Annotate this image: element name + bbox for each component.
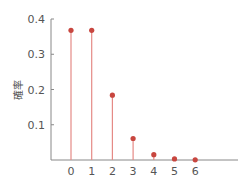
stem-marker [131,136,136,141]
x-tick-label: 5 [171,165,178,178]
x-tick-label: 3 [130,165,137,178]
x-tick-label: 4 [150,165,157,178]
y-tick-label: 0.4 [28,13,46,26]
y-tick-label: 0.2 [28,84,46,97]
stem-marker [110,93,115,98]
y-axis-label: 確率 [12,80,24,100]
stem-chart: 0.10.20.30.4 0123456 確率 [0,0,249,184]
x-tick-label: 0 [68,165,75,178]
axes [51,19,238,160]
y-tick-label: 0.1 [28,119,46,132]
x-tick-label: 2 [109,165,116,178]
data-stems [68,28,197,163]
stem-marker [151,152,156,157]
stem-marker [172,156,177,161]
x-tick-label: 6 [192,165,199,178]
y-ticks: 0.10.20.30.4 [28,13,55,132]
x-ticks: 0123456 [68,165,199,178]
stem-marker [89,28,94,33]
y-tick-label: 0.3 [28,48,46,61]
stem-marker [68,28,73,33]
x-tick-label: 1 [88,165,95,178]
stem-marker [193,157,198,162]
